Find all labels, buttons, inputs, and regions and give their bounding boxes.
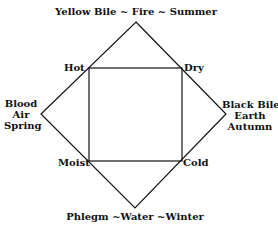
left-label-season: Spring [4, 120, 38, 131]
top-label: Yellow Bile ~ Fire ~ Summer [50, 6, 222, 17]
corner-dry: Dry [184, 62, 204, 73]
corner-cold: Cold [183, 157, 208, 168]
inner-square [89, 68, 182, 161]
corner-moist: Moist [58, 157, 90, 168]
right-label: Black Bile Earth Autumn [222, 99, 278, 132]
corner-hot: Hot [64, 62, 85, 73]
left-label-element: Air [4, 109, 38, 120]
bottom-label: Phlegm ~Water ~Winter [60, 211, 210, 222]
left-label-humor: Blood [4, 98, 38, 109]
left-label: Blood Air Spring [4, 98, 38, 131]
right-label-element: Earth [222, 110, 278, 121]
right-label-season: Autumn [222, 121, 278, 132]
right-label-humor: Black Bile [222, 99, 278, 110]
outer-diamond [41, 22, 226, 208]
